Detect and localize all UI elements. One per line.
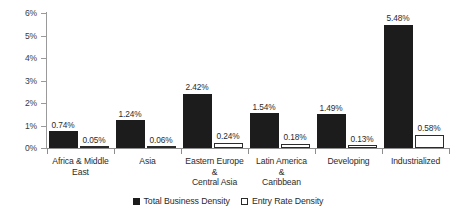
bar-value-label: 0.58% bbox=[411, 124, 448, 133]
bar-entry-rate-density bbox=[147, 146, 176, 148]
bar-total-business-density bbox=[116, 120, 145, 148]
y-axis-tick-label: 6% bbox=[0, 9, 37, 18]
bar-total-business-density bbox=[183, 94, 212, 148]
legend-label: Total Business Density bbox=[144, 196, 230, 206]
x-axis-tick bbox=[181, 149, 182, 154]
x-axis-category-label: Industrialized bbox=[374, 156, 456, 167]
x-axis-tick bbox=[114, 149, 115, 154]
bar-value-label: 0.06% bbox=[143, 136, 180, 145]
bar-group: 2.42%0.24% bbox=[181, 13, 248, 148]
bar-value-label: 1.49% bbox=[313, 104, 350, 113]
x-axis-category-label-line: & bbox=[240, 167, 323, 178]
bar-value-label: 5.48% bbox=[380, 14, 417, 23]
bar-total-business-density bbox=[250, 113, 279, 148]
bar-value-label: 0.13% bbox=[344, 135, 381, 144]
legend-swatch-icon bbox=[241, 198, 248, 205]
legend-swatch-icon bbox=[133, 198, 140, 205]
bar-value-label: 2.42% bbox=[179, 83, 216, 92]
bar-total-business-density bbox=[49, 131, 78, 148]
bar-group: 1.54%0.18% bbox=[248, 13, 315, 148]
bar-entry-rate-density bbox=[214, 143, 243, 148]
bar-value-label: 0.24% bbox=[210, 132, 247, 141]
x-axis-category-label-line: East bbox=[39, 167, 122, 178]
bar-value-label: 1.24% bbox=[112, 110, 149, 119]
bar-value-label: 0.18% bbox=[277, 133, 314, 142]
x-axis-tick bbox=[47, 149, 48, 154]
x-axis-tick bbox=[315, 149, 316, 154]
bar-entry-rate-density bbox=[80, 146, 109, 148]
x-axis-tick bbox=[449, 149, 450, 154]
chart-legend: Total Business DensityEntry Rate Density bbox=[0, 196, 456, 206]
legend-label: Entry Rate Density bbox=[252, 196, 324, 206]
y-axis-tick-label: 3% bbox=[0, 77, 37, 86]
bar-entry-rate-density bbox=[281, 144, 310, 148]
x-axis-tick bbox=[382, 149, 383, 154]
bar-entry-rate-density bbox=[348, 145, 377, 148]
bar-total-business-density bbox=[317, 114, 346, 148]
x-axis-category-label-line: Caribbean bbox=[240, 177, 323, 188]
y-axis-tick-label: 2% bbox=[0, 99, 37, 108]
bar-entry-rate-density bbox=[415, 135, 444, 148]
y-axis-tick-label: 5% bbox=[0, 32, 37, 41]
bar-group: 5.48%0.58% bbox=[382, 13, 449, 148]
bar-chart: 0%1%2%3%4%5%6% 0.74%0.05%1.24%0.06%2.42%… bbox=[0, 0, 456, 216]
bar-group: 1.49%0.13% bbox=[315, 13, 382, 148]
legend-item[interactable]: Entry Rate Density bbox=[241, 196, 324, 206]
bar-value-label: 0.74% bbox=[45, 121, 82, 130]
bar-group: 1.24%0.06% bbox=[114, 13, 181, 148]
bar-total-business-density bbox=[384, 25, 413, 148]
y-axis-tick-label: 0% bbox=[0, 144, 37, 153]
plot-area: 0.74%0.05%1.24%0.06%2.42%0.24%1.54%0.18%… bbox=[47, 13, 449, 148]
y-axis-tick-label: 1% bbox=[0, 122, 37, 131]
x-axis-tick bbox=[248, 149, 249, 154]
legend-item[interactable]: Total Business Density bbox=[133, 196, 230, 206]
bar-value-label: 1.54% bbox=[246, 103, 283, 112]
x-axis-category-label-line: Industrialized bbox=[374, 156, 456, 167]
bar-group: 0.74%0.05% bbox=[47, 13, 114, 148]
y-axis-tick-label: 4% bbox=[0, 54, 37, 63]
bar-value-label: 0.05% bbox=[76, 136, 113, 145]
